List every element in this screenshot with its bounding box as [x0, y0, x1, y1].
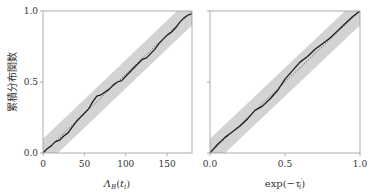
y-tick-label: 0.5 [24, 77, 39, 87]
x-tick-label: 50 [79, 159, 91, 169]
x-tick-label: 0 [40, 159, 46, 169]
x-tick-label: 0.0 [203, 159, 218, 169]
x-tick-label: 0.5 [278, 159, 293, 169]
x-axis-label-right: exp(−τ′i) [265, 177, 306, 191]
y-axis-label: 累積分布関数 [6, 52, 18, 112]
confidence-band [43, 0, 192, 167]
plot-area [43, 0, 192, 167]
plot-area [210, 0, 360, 167]
confidence-band [210, 0, 360, 167]
figure: 0501001500.00.51.0 0.00.51.0 累積分布関数 ΛB(t… [0, 0, 374, 194]
chart-panel-right: 0.00.51.0 [203, 0, 368, 169]
x-tick-label: 1.0 [353, 159, 368, 169]
x-axis-label-left: ΛB(ti) [103, 178, 131, 191]
x-tick-label: 150 [159, 159, 176, 169]
y-tick-label: 1.0 [24, 6, 39, 16]
chart-panel-left: 0501001500.00.51.0 [24, 0, 192, 169]
x-tick-label: 100 [117, 159, 134, 169]
y-tick-label: 0.0 [24, 148, 39, 158]
